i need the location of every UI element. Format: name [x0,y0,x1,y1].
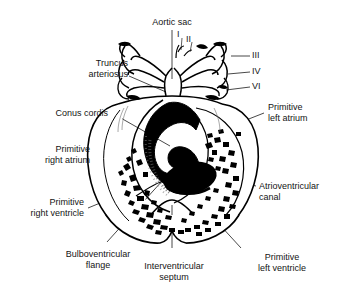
label-arch-4: IV [252,66,261,76]
label-primitive-left-ventricle-line2: left ventricle [232,263,332,274]
label-truncus-arteriosus-line2: arteriosus [38,69,128,80]
aortic-sac-right-wall [174,68,182,96]
label-primitive-left-ventricle-line1: Primitive [232,252,332,263]
arch-right-mid [182,87,219,97]
arch-2-stub [184,50,192,56]
label-arch-6: VI [252,81,261,91]
label-atrioventricular-canal-line1: Atrioventricular [259,181,319,192]
arch-left-mid [127,87,164,97]
label-arch-3: III [252,50,260,60]
aortic-sac-left-wall [165,68,173,96]
label-atrioventricular-canal-line2: canal [259,192,281,203]
label-primitive-left-atrium-line2: left atrium [268,113,308,124]
leader-arch-6 [226,87,250,90]
leader-arch-4 [228,72,250,74]
label-interventricular-septum-line1: Interventricular [122,261,226,272]
leader-arch-1 [181,38,182,50]
leader-truncus-arteriosus [129,76,166,92]
label-aortic-sac: Aortic sac [124,17,220,28]
label-primitive-right-ventricle-line1: Primitive [0,197,84,208]
label-arch-2: II [186,34,191,44]
arch-vessel-tips [118,42,228,100]
label-conus-cordis: Conus cordis [8,108,108,119]
figure-canvas: Aortic sac I II III IV VI Truncus arteri… [0,0,344,294]
label-truncus-arteriosus-line1: Truncus [38,58,128,69]
label-primitive-left-atrium-line1: Primitive [268,102,303,113]
arch-right-upper-2 [182,70,218,82]
label-primitive-right-ventricle-line2: right ventricle [0,208,84,219]
label-primitive-right-atrium-line1: Primitive [6,144,90,155]
label-primitive-right-atrium-line2: right atrium [6,155,90,166]
label-interventricular-septum-line2: septum [122,272,226,283]
arch-left-upper-2 [128,70,164,82]
label-arch-1: I [177,29,180,39]
aortic-arch-system [118,43,228,99]
label-bulboventricular-flange-line1: Bulboventricular [42,249,154,260]
